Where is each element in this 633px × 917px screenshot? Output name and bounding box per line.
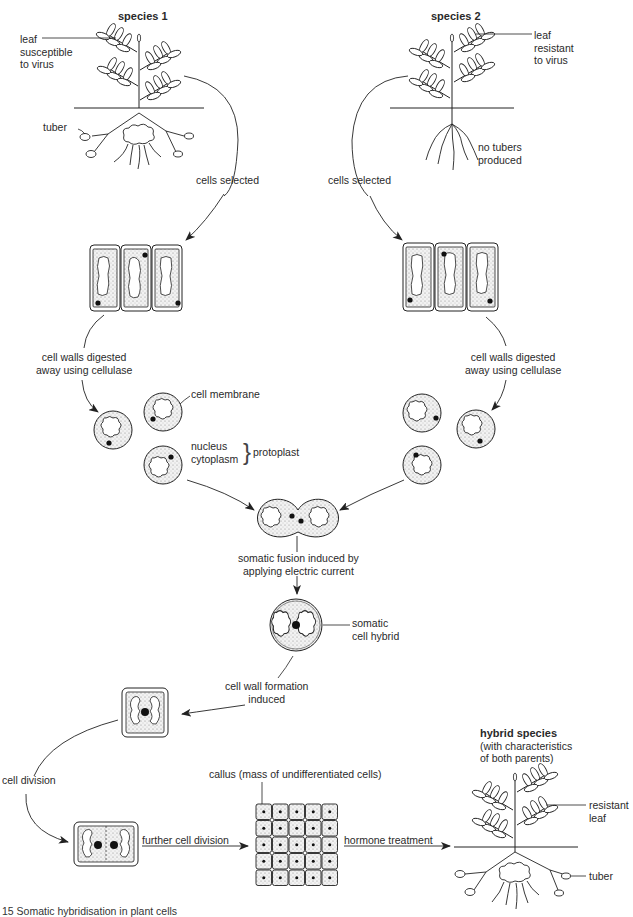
callus-label: callus (mass of undifferentiated cells) — [209, 768, 382, 781]
walled-hybrid-cell — [122, 688, 168, 737]
protoplast-brace: } — [243, 440, 251, 464]
hybrid-tuber-label: tuber — [589, 870, 613, 883]
species2-no-tubers-label: no tubers produced — [478, 141, 522, 166]
hybrid-plant-illustration — [454, 762, 586, 909]
species1-cells-selected-label: cells selected — [196, 174, 259, 187]
hormone-treatment-label: hormone treatment — [344, 834, 433, 847]
species1-digest-label: cell walls digested away using cellulase — [36, 351, 132, 376]
protoplast-label: protoplast — [253, 446, 299, 459]
species2-cells-selected-label: cells selected — [328, 174, 391, 187]
callus-grid — [256, 804, 338, 886]
cell-membrane-label: cell membrane — [191, 388, 260, 401]
nucleus-cytoplasm-label: nucleus cytoplasm — [191, 440, 238, 465]
further-cell-division-label: further cell division — [142, 834, 229, 847]
fused-protoplast — [257, 499, 338, 552]
species2-leaf-label: leaf resistant to virus — [534, 29, 574, 67]
species2-digest-label: cell walls digested away using cellulase — [465, 351, 561, 376]
figure-caption: 15 Somatic hybridisation in plant cells — [2, 905, 177, 917]
somatic-hybrid-cell — [270, 599, 350, 678]
resistant-leaf-label: resistant leaf — [589, 799, 629, 824]
hybrid-species-heading: hybrid species (with characteristics of … — [480, 727, 572, 765]
cell-division-label: cell division — [2, 774, 56, 787]
species1-leaf-label: leaf susceptible to virus — [20, 33, 73, 71]
species2-protoplasts — [403, 394, 495, 484]
somatic-cell-hybrid-label: somatic cell hybrid — [352, 617, 399, 642]
fusion-label: somatic fusion induced by applying elect… — [238, 552, 359, 577]
species2-walled-cells — [403, 243, 498, 311]
species1-walled-cells — [90, 245, 182, 311]
species1-tuber-label: tuber — [43, 121, 67, 134]
species1-title: species 1 — [118, 10, 168, 23]
cell-wall-formation-label: cell wall formation induced — [225, 680, 308, 705]
species2-title: species 2 — [431, 10, 481, 23]
divided-cell — [74, 822, 138, 866]
species1-protoplasts — [94, 393, 190, 484]
